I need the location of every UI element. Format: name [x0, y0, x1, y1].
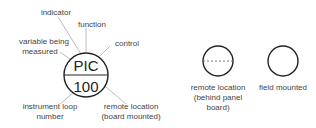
behind-panel-label-line3: board) [206, 103, 229, 112]
loop-label-line1: instrument loop [23, 102, 78, 111]
behind-panel-label-line2: (behind panel [194, 93, 243, 102]
field-mounted-circle [268, 46, 298, 76]
function-label: function [78, 20, 106, 29]
loop-number: 100 [73, 78, 98, 95]
behind-panel-label-line1: remote location [191, 83, 246, 92]
variable-label-line1: variable being [19, 37, 69, 46]
variable-label-line2: measured [22, 47, 58, 56]
control-leader [100, 46, 110, 56]
field-mounted-symbol: field mounted [259, 46, 307, 92]
function-letters: PIC [73, 57, 98, 74]
instrument-symbol-diagram: PIC 100 indicator function variable bein… [0, 0, 316, 128]
indicator-label: indicator [41, 8, 72, 17]
remote-board-label-line2: (board mounted) [101, 112, 160, 121]
behind-panel-symbol: remote location (behind panel board) [191, 46, 246, 112]
loop-label-line2: number [36, 112, 63, 121]
field-mounted-label: field mounted [259, 83, 307, 92]
main-instrument-bubble: PIC 100 [64, 53, 108, 97]
variable-leader [60, 52, 70, 59]
remote-board-label-line1: remote location [104, 102, 159, 111]
control-label: control [115, 39, 139, 48]
